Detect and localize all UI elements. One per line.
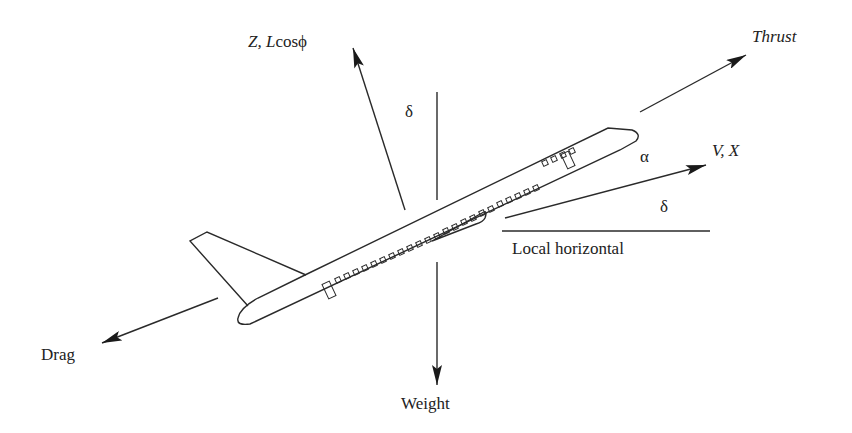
force-diagram [0,0,852,433]
z-lift-arrow [353,48,405,210]
thrust-label: Thrust [752,28,796,45]
local-horizontal-label: Local horizontal [512,240,624,257]
cos-phi: cosϕ [275,32,307,51]
thrust-arrow [640,55,746,112]
delta-top-label: δ [405,103,413,120]
weight-label: Weight [401,395,450,412]
velocity-text: V, X [712,141,739,160]
alpha-label: α [640,148,649,165]
drag-arrow [102,298,218,343]
drag-label: Drag [41,346,75,363]
delta-right-label: δ [660,198,668,215]
z-lift-label: Z, Lcosϕ [248,33,307,50]
z-symbol: Z, [248,32,262,51]
velocity-label: V, X [712,142,739,159]
fuselage [238,128,639,324]
